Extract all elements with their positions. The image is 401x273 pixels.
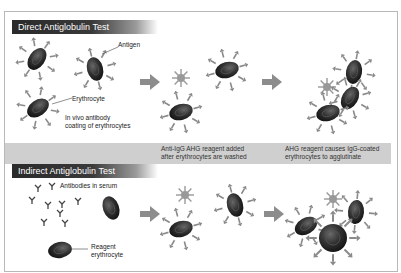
antigen-label: Antigen — [118, 41, 140, 49]
in-vivo-label-1: In vivo antibody — [65, 114, 110, 122]
arrow-icon — [140, 206, 160, 222]
antibodies-label: Antibodies in serum — [60, 182, 117, 190]
agglutinated-cells-direct — [301, 47, 380, 140]
arrow-icon — [264, 206, 284, 222]
ahg-reagent-icon — [172, 69, 190, 87]
step1-line1: Anti-IgG AHG reagent added — [161, 145, 244, 153]
direct-test-header: Direct Antiglobulin Test — [12, 20, 158, 34]
reagent-label-2: erythrocyte — [91, 251, 123, 259]
step1-line2: after erythrocytes are washed — [161, 153, 247, 161]
step2-line1: AHG reagent causes IgG-coated — [285, 145, 379, 153]
erythrocyte-label: Erythrocyte — [72, 95, 105, 103]
in-vivo-label-2: coating of erythrocytes — [65, 122, 130, 130]
step2-line2: erythrocytes to agglutinate — [285, 153, 361, 161]
arrow-icon — [140, 74, 160, 90]
steps-band: Anti-IgG AHG reagent added after erythro… — [5, 143, 391, 164]
illustration-layer — [0, 0, 401, 273]
indirect-test-header: Indirect Antiglobulin Test — [12, 164, 158, 178]
arrow-icon — [262, 74, 282, 90]
agglutinated-cells-indirect — [276, 188, 380, 265]
reagent-label-1: Reagent — [91, 243, 116, 251]
